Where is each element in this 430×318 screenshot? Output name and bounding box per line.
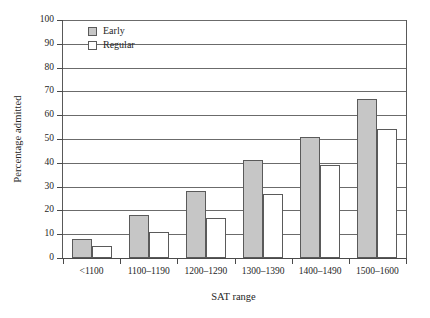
x-axis-tick-label: 1400–1490 [292, 266, 349, 276]
bar-early [243, 160, 263, 258]
bar-regular [320, 165, 340, 258]
y-axis-tick-label: 80 [23, 63, 54, 73]
y-axis-tick [57, 163, 63, 164]
y-axis-tick-label: 60 [23, 110, 54, 120]
legend-label-early: Early [103, 26, 125, 36]
x-axis-end-tick [63, 258, 64, 264]
gridline [63, 68, 406, 69]
y-axis-tick-label: 40 [23, 158, 54, 168]
y-axis-tick-label: 30 [23, 182, 54, 192]
x-axis-tick [235, 258, 236, 264]
x-axis-tick-label: 1100–1190 [120, 266, 177, 276]
y-axis-tick-label: 10 [23, 229, 54, 239]
gridline [63, 115, 406, 116]
x-axis-title: SAT range [62, 291, 405, 302]
legend-label-regular: Regular [103, 40, 135, 50]
bar-early [129, 215, 149, 258]
legend-swatch-early-icon [88, 27, 97, 36]
x-axis-tick-label: <1100 [63, 266, 120, 276]
y-axis-tick-label: 70 [23, 86, 54, 96]
y-axis-tick [57, 115, 63, 116]
bar-early [357, 99, 377, 258]
gridline [63, 234, 406, 235]
gridline [63, 20, 406, 21]
y-axis-tick [57, 139, 63, 140]
bar-regular [149, 232, 169, 258]
y-axis-tick-label: 0 [23, 253, 54, 263]
bar-early [186, 191, 206, 258]
y-axis-tick [57, 20, 63, 21]
y-axis-tick-label: 20 [23, 205, 54, 215]
y-axis-tick [57, 44, 63, 45]
y-axis-tick [57, 91, 63, 92]
y-axis-tick [57, 68, 63, 69]
gridline [63, 210, 406, 211]
legend-item-early: Early [88, 24, 168, 38]
legend-swatch-regular-icon [88, 41, 97, 50]
chart-legend: Early Regular [88, 24, 168, 52]
bar-regular [263, 194, 283, 258]
y-axis-tick [57, 187, 63, 188]
x-axis-tick [349, 258, 350, 264]
x-axis-tick-label: 1500–1600 [349, 266, 406, 276]
bar-early [72, 239, 92, 258]
gridline [63, 91, 406, 92]
bar-regular [206, 218, 226, 258]
gridline [63, 139, 406, 140]
bar-regular [92, 246, 112, 258]
y-axis-tick [57, 210, 63, 211]
y-axis-tick-label: 90 [23, 39, 54, 49]
x-axis-tick-label: 1300–1390 [235, 266, 292, 276]
y-axis-tick [57, 234, 63, 235]
y-axis-tick-label: 50 [23, 134, 54, 144]
x-axis-tick [177, 258, 178, 264]
plot-area: 0102030405060708090100<11001100–11901200… [62, 20, 407, 258]
gridline [63, 187, 406, 188]
x-axis-tick [120, 258, 121, 264]
x-axis-tick-label: 1200–1290 [177, 266, 234, 276]
gridline [63, 163, 406, 164]
y-axis-tick-label: 100 [23, 15, 54, 25]
legend-item-regular: Regular [88, 38, 168, 52]
x-axis-end-tick [406, 258, 407, 264]
bar-regular [377, 129, 397, 258]
bar-early [300, 137, 320, 258]
x-axis-tick [292, 258, 293, 264]
bar-chart-figure: Percentage admitted 01020304050607080901… [0, 0, 430, 318]
